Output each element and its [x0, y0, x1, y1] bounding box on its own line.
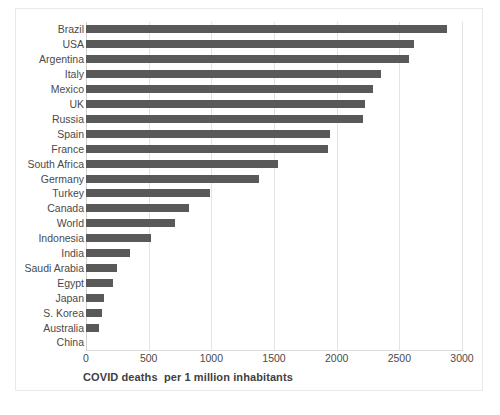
- bar-row: Egypt: [0, 275, 500, 290]
- bar-row: Brazil: [0, 22, 500, 37]
- bar-row: India: [0, 246, 500, 261]
- category-label-france: France: [51, 143, 84, 154]
- category-label-australia: Australia: [43, 322, 84, 333]
- category-label-s-korea: S. Korea: [43, 307, 84, 318]
- bar-row: S. Korea: [0, 305, 500, 320]
- bar-row: Italy: [0, 67, 500, 82]
- x-tick-label-1000: 1000: [200, 353, 223, 364]
- bar-row: Germany: [0, 171, 500, 186]
- bar-row: Japan: [0, 290, 500, 305]
- bar-world: [86, 219, 175, 227]
- bar-turkey: [86, 189, 210, 197]
- bar-row: Saudi Arabia: [0, 261, 500, 276]
- bar-row: Australia: [0, 320, 500, 335]
- bar-rows: BrazilUSAArgentinaItalyMexicoUKRussiaSpa…: [0, 22, 500, 350]
- x-tick-label-2000: 2000: [325, 353, 348, 364]
- bar-row: Turkey: [0, 186, 500, 201]
- category-label-spain: Spain: [57, 129, 84, 140]
- bar-row: Indonesia: [0, 231, 500, 246]
- bar-row: Canada: [0, 201, 500, 216]
- category-label-egypt: Egypt: [57, 278, 84, 289]
- bar-brazil: [86, 25, 447, 33]
- bar-italy: [86, 70, 381, 78]
- x-axis-title: COVID deaths per 1 million inhabitants: [0, 371, 500, 383]
- category-label-germany: Germany: [41, 173, 84, 184]
- bar-france: [86, 145, 328, 153]
- category-label-canada: Canada: [47, 203, 84, 214]
- x-tick-label-2500: 2500: [388, 353, 411, 364]
- bar-mexico: [86, 85, 373, 93]
- bar-row: USA: [0, 37, 500, 52]
- category-label-argentina: Argentina: [39, 54, 84, 65]
- category-label-india: India: [61, 248, 84, 259]
- x-axis-tick-labels: 050010001500200025003000: [0, 353, 500, 369]
- bar-row: France: [0, 141, 500, 156]
- bar-row: UK: [0, 97, 500, 112]
- bar-saudi-arabia: [86, 264, 117, 272]
- bar-row: Spain: [0, 126, 500, 141]
- bar-row: Russia: [0, 111, 500, 126]
- category-label-saudi-arabia: Saudi Arabia: [24, 263, 84, 274]
- category-label-china: China: [57, 337, 84, 348]
- x-tick-label-1500: 1500: [262, 353, 285, 364]
- bar-egypt: [86, 279, 113, 287]
- x-tick-label-0: 0: [83, 353, 89, 364]
- bar-row: Argentina: [0, 52, 500, 67]
- bar-australia: [86, 324, 99, 332]
- category-label-indonesia: Indonesia: [38, 233, 84, 244]
- category-label-usa: USA: [62, 39, 84, 50]
- bar-argentina: [86, 55, 409, 63]
- category-label-russia: Russia: [52, 114, 84, 125]
- bar-india: [86, 249, 130, 257]
- bar-s-korea: [86, 309, 102, 317]
- bar-russia: [86, 115, 363, 123]
- x-tick-label-500: 500: [140, 353, 158, 364]
- bar-spain: [86, 130, 330, 138]
- bar-canada: [86, 204, 189, 212]
- bar-uk: [86, 100, 365, 108]
- bar-row: China: [0, 335, 500, 350]
- bar-row: World: [0, 216, 500, 231]
- x-axis-line: [86, 350, 463, 351]
- bar-japan: [86, 294, 104, 302]
- bar-indonesia: [86, 234, 151, 242]
- x-tick-label-3000: 3000: [450, 353, 473, 364]
- category-label-turkey: Turkey: [52, 188, 84, 199]
- category-label-japan: Japan: [55, 293, 84, 304]
- bar-usa: [86, 40, 414, 48]
- covid-deaths-bar-chart: BrazilUSAArgentinaItalyMexicoUKRussiaSpa…: [0, 0, 500, 415]
- bar-row: South Africa: [0, 156, 500, 171]
- category-label-italy: Italy: [65, 69, 84, 80]
- category-label-world: World: [57, 218, 84, 229]
- bar-south-africa: [86, 160, 278, 168]
- category-label-mexico: Mexico: [51, 84, 84, 95]
- category-label-uk: UK: [69, 99, 84, 110]
- bar-germany: [86, 175, 259, 183]
- category-label-brazil: Brazil: [58, 24, 84, 35]
- category-label-south-africa: South Africa: [27, 158, 84, 169]
- bar-row: Mexico: [0, 82, 500, 97]
